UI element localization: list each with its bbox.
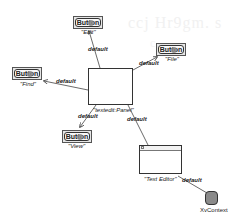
find-label: "Find"	[20, 81, 36, 87]
button-icon: Button	[75, 18, 101, 27]
button-dot-icon	[171, 47, 177, 53]
button-node-find[interactable]: Button	[12, 67, 42, 80]
edge-label-file: default	[139, 60, 159, 66]
edge-label-text-editor: default	[127, 116, 147, 122]
edit-label: "Edit"	[81, 29, 96, 35]
window-titlebar	[140, 146, 181, 151]
button-dot-icon	[27, 71, 33, 77]
edge-label-view: default	[78, 113, 98, 119]
button-icon: Button	[64, 132, 90, 141]
button-node-view[interactable]: Button	[62, 130, 92, 143]
text-editor-node[interactable]	[139, 145, 182, 174]
panel-label: "textedit:Panel"	[93, 107, 134, 113]
button-node-edit[interactable]: Button	[73, 16, 103, 29]
button-dot-icon	[88, 20, 94, 26]
button-node-file[interactable]: Button	[156, 43, 186, 56]
diagram-canvas: ccj Hr9gm. s c Button "Edit" Button "Fil…	[0, 0, 239, 221]
edge-label-find: default	[56, 78, 76, 84]
edge-label-edit: default	[88, 46, 108, 52]
xvcontext-label: XvContext	[200, 207, 228, 213]
file-label: "File"	[165, 56, 179, 62]
view-label: "View"	[68, 143, 85, 149]
window-menu-icon	[141, 146, 144, 149]
text-editor-label: "Text Editor"	[144, 176, 177, 182]
panel-node[interactable]	[88, 68, 133, 105]
edge-label-context: default	[182, 177, 202, 183]
button-dot-icon	[77, 134, 83, 140]
button-icon: Button	[158, 45, 184, 54]
xvcontext-node[interactable]	[205, 191, 218, 205]
button-icon: Button	[14, 69, 40, 78]
